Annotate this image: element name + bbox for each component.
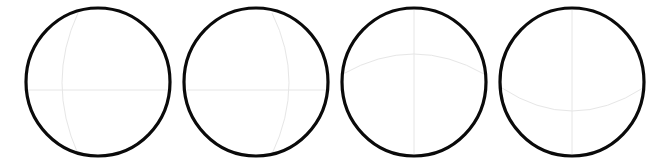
sphere-rotation-diagram [0, 0, 665, 166]
sphere-outline [184, 8, 328, 156]
sphere-1 [26, 8, 170, 156]
guide-arc [272, 13, 289, 154]
sphere-4 [500, 8, 644, 156]
sphere-3 [342, 8, 486, 156]
sphere-2 [184, 8, 328, 156]
sphere-outline [26, 8, 170, 156]
guide-arc [62, 13, 78, 154]
